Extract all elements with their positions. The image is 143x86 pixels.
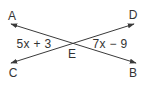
intersecting-lines-diagram: A D C B E 5x + 3 7x − 9: [0, 0, 143, 86]
point-label-c: C: [9, 67, 18, 79]
point-label-a: A: [8, 10, 16, 22]
point-label-b: B: [129, 67, 137, 79]
point-label-d: D: [129, 9, 138, 21]
angle-expression-left: 5x + 3: [17, 38, 52, 50]
point-label-e: E: [68, 48, 76, 60]
angle-expression-right: 7x − 9: [93, 38, 128, 50]
